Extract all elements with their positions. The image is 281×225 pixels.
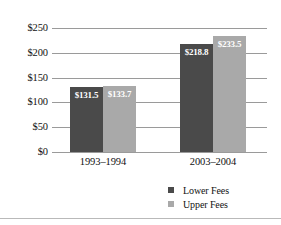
bar-upper-fees-1993-1994[interactable]: $133.7 xyxy=(103,86,136,152)
plot-area: $131.5 $133.7 1993–1994 $218.8 $233.5 20… xyxy=(52,28,267,152)
bar-group-1993-1994: $131.5 $133.7 1993–1994 xyxy=(70,28,136,152)
bar-lower-fees-1993-1994[interactable]: $131.5 xyxy=(70,87,103,152)
y-tick-150: $150 xyxy=(2,73,48,83)
category-label-2003-2004: 2003–2004 xyxy=(153,156,273,167)
figure-bottom-rule xyxy=(0,218,281,219)
legend-item-upper-fees[interactable]: Upper Fees xyxy=(168,198,229,210)
bar-label-lower-2003-2004: $218.8 xyxy=(185,47,209,57)
bar-label-upper-1993-1994: $133.7 xyxy=(108,89,132,99)
bar-label-upper-2003-2004: $233.5 xyxy=(218,39,242,49)
legend-label-lower-fees: Lower Fees xyxy=(183,185,229,196)
legend-swatch-upper-fees-icon xyxy=(168,201,174,207)
legend-swatch-lower-fees-icon xyxy=(168,187,174,193)
y-tick-100: $100 xyxy=(2,97,48,107)
y-tick-0: $0 xyxy=(2,147,48,157)
bar-group-2003-2004: $218.8 $233.5 2003–2004 xyxy=(180,28,246,152)
legend-label-upper-fees: Upper Fees xyxy=(183,199,228,210)
legend-item-lower-fees[interactable]: Lower Fees xyxy=(168,184,229,196)
y-tick-50: $50 xyxy=(2,122,48,132)
bar-label-lower-1993-1994: $131.5 xyxy=(75,90,99,100)
y-axis-labels: $250 $200 $150 $100 $50 $0 xyxy=(0,28,48,152)
y-tick-200: $200 xyxy=(2,48,48,58)
chart-legend: Lower Fees Upper Fees xyxy=(168,184,229,212)
bar-chart-figure: $250 $200 $150 $100 $50 $0 $131.5 $133.7… xyxy=(0,0,281,225)
bar-lower-fees-2003-2004[interactable]: $218.8 xyxy=(180,44,213,153)
category-label-1993-1994: 1993–1994 xyxy=(43,156,163,167)
y-tick-250: $250 xyxy=(2,23,48,33)
bar-upper-fees-2003-2004[interactable]: $233.5 xyxy=(213,36,246,152)
axis-line-0 xyxy=(52,152,267,153)
